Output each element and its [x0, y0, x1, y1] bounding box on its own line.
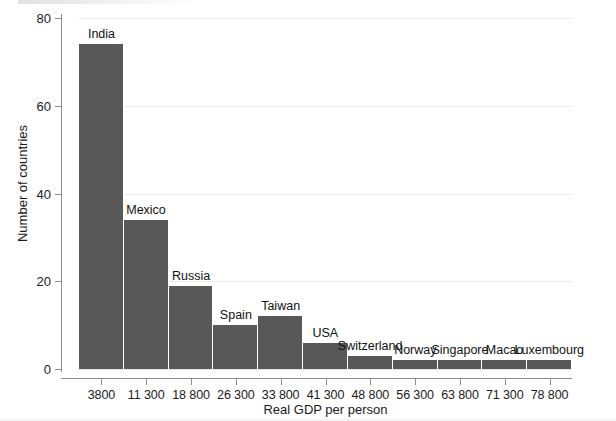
x-tick-mark-8 [460, 379, 461, 385]
bar-annotation: Luxembourg [515, 344, 585, 357]
x-tick-mark-0 [101, 379, 102, 385]
x-tick-mark-10 [550, 379, 551, 385]
bar [213, 325, 258, 369]
histogram-chart: 020406080 Number of countries IndiaMexic… [0, 0, 616, 421]
bar [393, 360, 438, 369]
bar [482, 360, 527, 369]
bar-annotation: Norway [394, 344, 436, 357]
x-tick-mark-2 [191, 379, 192, 385]
bar-annotation: Switzerland [338, 340, 403, 353]
x-tick-mark-6 [370, 379, 371, 385]
bar-annotation: Russia [172, 270, 210, 283]
bar [438, 360, 483, 369]
bar [527, 360, 572, 369]
bar [258, 316, 303, 369]
x-tick-mark-4 [281, 379, 282, 385]
x-tick-mark-3 [236, 379, 237, 385]
x-tick-mark-7 [415, 379, 416, 385]
bar-annotation: USA [313, 327, 339, 340]
x-tick-mark-9 [505, 379, 506, 385]
bar [169, 286, 214, 369]
bar-annotation: Mexico [126, 204, 166, 217]
bar-annotation: Spain [220, 309, 252, 322]
y-tick-mark-0 [55, 369, 61, 370]
bar [79, 44, 124, 369]
gridline-0 [79, 369, 572, 370]
bars-layer: IndiaMexicoRussiaSpainTaiwanUSASwitzerla… [0, 0, 616, 369]
bar-annotation: Taiwan [261, 300, 300, 313]
bar-annotation: Singapore [431, 344, 488, 357]
x-axis-title: Real GDP per person [79, 402, 572, 417]
x-tick-mark-1 [146, 379, 147, 385]
bar [348, 356, 393, 369]
x-tick-label-10: 78 800 [510, 388, 590, 402]
bar [124, 220, 169, 369]
x-axis-line [61, 378, 572, 379]
bar-annotation: India [88, 28, 115, 41]
x-tick-mark-5 [326, 379, 327, 385]
